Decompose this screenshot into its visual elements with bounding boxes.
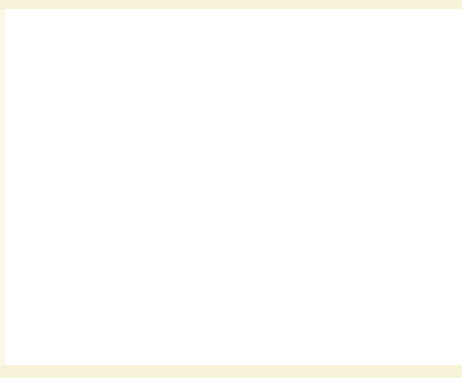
page-band-bottom: [0, 365, 462, 378]
figure-container: Panel (b) Percent of GDP Year 0123456789…: [0, 0, 462, 378]
page-band-top: [0, 0, 462, 9]
page-band-left: [0, 0, 5, 378]
